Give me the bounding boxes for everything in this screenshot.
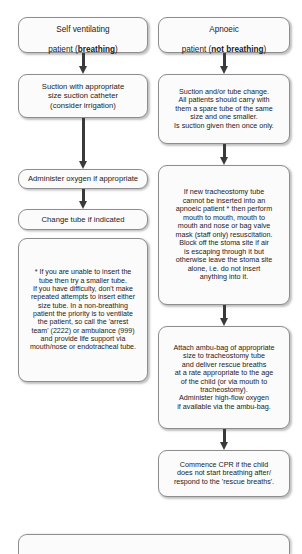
node-suction-or-tube-change: Suction and/or tube change. All patients… [158,74,290,144]
node-footnote-note-text: * If you are unable to insert the tube t… [23,268,143,352]
node-change-tube-text: Change tube if indicated [23,215,143,224]
arrow-suction-to-cannot-insert [223,144,226,158]
node-self-ventilating-patient: Self ventilating patient (breathing) [18,17,148,53]
node-attach-ambu-bag: Attach ambu-bag of appropriate size to t… [158,326,290,429]
node-self-ventilating-patient-text: Self ventilating patient (breathing) [23,16,143,55]
arrow-self-ventilating-to-suction [82,53,85,67]
node-administer-oxygen: Administer oxygen if appropriate [18,169,148,189]
node-suction-appropriate-catheter-text: Suction with appropriate size suction ca… [23,82,143,109]
node-administer-oxygen-text: Administer oxygen if appropriate [23,174,143,183]
node-cannot-insert-tube-resuscitation-text: If new tracheostomy tube cannot be inser… [163,188,285,281]
not-breathing-emphasis: not breathing [211,45,263,54]
arrow-apnoeic-to-suction-tube-change [223,53,226,67]
node-commence-cpr-text: Commence CPR if the child does not start… [163,461,285,486]
node-apnoeic-patient: Apnoeic patient (not breathing) [158,17,290,53]
node-suction-appropriate-catheter: Suction with appropriate size suction ca… [18,74,148,118]
arrow-oxygen-to-change-tube [82,189,85,202]
node-cannot-insert-tube-resuscitation: If new tracheostomy tube cannot be inser… [158,165,290,305]
node-commence-cpr: Commence CPR if the child does not start… [158,450,290,497]
bottom-cutoff-box [18,534,290,554]
arrow-suction-to-administer-oxygen [82,118,85,162]
arrow-resuscitation-to-ambu-bag [223,305,226,319]
node-apnoeic-patient-text: Apnoeic patient (not breathing) [163,16,285,55]
node-change-tube: Change tube if indicated [18,209,148,230]
node-footnote-note: * If you are unable to insert the tube t… [18,238,148,382]
node-attach-ambu-bag-text: Attach ambu-bag of appropriate size to t… [163,344,285,412]
node-suction-or-tube-change-text: Suction and/or tube change. All patients… [163,88,285,130]
arrow-ambu-bag-to-cpr [223,429,226,443]
